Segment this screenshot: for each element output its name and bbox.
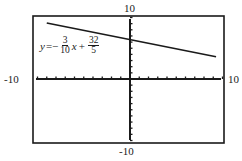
eq-fraction-1: 3 10	[59, 36, 71, 55]
eq-sign2: +	[79, 40, 85, 52]
eq-lhs: y	[40, 40, 45, 52]
x-max-label: 10	[228, 74, 239, 85]
eq-frac1-den: 10	[59, 46, 71, 55]
graph-window	[0, 0, 242, 161]
y-max-label: 10	[124, 3, 135, 14]
equation-annotation: y = − 3 10 x + 32 5	[40, 36, 100, 55]
eq-frac2-den: 5	[90, 46, 97, 55]
x-min-label: -10	[4, 74, 19, 85]
eq-var: x	[72, 40, 77, 52]
y-min-label: -10	[119, 146, 134, 157]
eq-fraction-2: 32 5	[88, 36, 100, 55]
eq-sign1: −	[52, 40, 58, 52]
